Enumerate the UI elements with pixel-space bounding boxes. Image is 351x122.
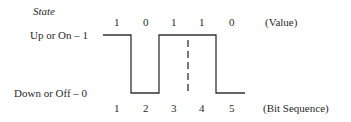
bit-1: 1 (114, 103, 120, 114)
bit-4: 4 (199, 103, 205, 114)
bit-3: 3 (171, 103, 177, 114)
bit-5: 5 (229, 103, 235, 114)
signal-line (103, 35, 245, 93)
bit-row-label: (Bit Sequence) (263, 103, 329, 114)
bit-2: 2 (143, 103, 149, 114)
